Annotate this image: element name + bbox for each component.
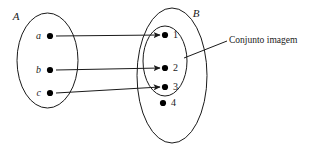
element-label-1: 1 — [173, 29, 178, 40]
element-label-a: a — [36, 30, 41, 41]
element-dot-b — [47, 67, 53, 73]
element-dot-3 — [162, 84, 168, 90]
image-set-callout-label: Conjunto imagem — [229, 35, 298, 45]
element-label-2: 2 — [173, 62, 178, 73]
element-label-4: 4 — [171, 97, 176, 108]
set-b-label: B — [193, 7, 200, 19]
element-dot-4 — [160, 100, 166, 106]
arrow-b-to-2 — [56, 68, 160, 70]
element-dot-c — [47, 90, 53, 96]
element-label-b: b — [36, 64, 41, 75]
element-label-c: c — [37, 87, 42, 98]
set-a-label: A — [12, 10, 20, 22]
element-dot-2 — [162, 65, 168, 71]
element-label-3: 3 — [173, 81, 178, 92]
element-dot-a — [47, 33, 53, 39]
element-dot-1 — [162, 32, 168, 38]
mapping-diagram-figure: A B a b c 1 2 3 4 Conjunto imagem — [0, 0, 318, 151]
diagram-canvas: A B a b c 1 2 3 4 Conjunto imagem — [0, 0, 318, 151]
arrow-a-to-1 — [56, 35, 160, 36]
